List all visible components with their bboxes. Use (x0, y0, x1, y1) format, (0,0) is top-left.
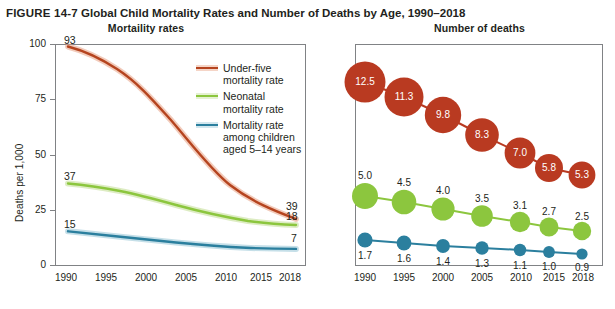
bubble-age-5-14-1990 (357, 232, 372, 247)
bubble-label-neonatal-2018: 2.5 (562, 211, 602, 222)
bubble-label-under-five-1990: 12.5 (345, 76, 385, 87)
bubble-label-age-5-14-2005: 1.3 (462, 258, 502, 269)
data-label-neonatal-end: 18 (286, 210, 298, 222)
bubble-label-under-five-1995: 11.3 (384, 91, 424, 102)
bubble-neonatal-2015 (540, 218, 559, 237)
figure-title: FIGURE 14-7 Global Child Mortality Rates… (6, 6, 465, 20)
bubble-neonatal-1995 (392, 190, 417, 215)
legend-label: Under-five mortality rate (223, 62, 284, 86)
line-swatch-icon (196, 90, 218, 102)
series-line-age-5-14 (68, 231, 296, 249)
legend-item-under-five-mortality-rate[interactable]: Under-five mortality rate (196, 62, 301, 86)
bubble-age-5-14-2018 (576, 248, 587, 259)
bubble-age-5-14-2000 (436, 239, 450, 253)
bubble-label-neonatal-2005: 3.5 (462, 193, 502, 204)
legend-item-mortality-rate-age-5-14[interactable]: Mortality rate among children aged 5–14 … (196, 119, 301, 156)
bubble-label-neonatal-1990: 5.0 (345, 170, 385, 181)
data-label-age-5-14-start: 15 (64, 218, 76, 230)
bubble-neonatal-2000 (431, 197, 454, 220)
legend-label: Neonatal mortality rate (223, 90, 284, 114)
figure-caption: Global Child Mortality Rates and Number … (81, 7, 465, 19)
bubble-label-neonatal-2000: 4.0 (423, 185, 463, 196)
bubble-label-age-5-14-2018: 0.9 (562, 262, 602, 273)
bubble-label-age-5-14-1995: 1.6 (384, 253, 424, 264)
bubble-label-under-five-2018: 5.3 (562, 169, 602, 180)
bubble-neonatal-2018 (573, 222, 591, 240)
panel-mortality-rates: Mortaility rates Deaths per 1,000 100 75… (0, 22, 320, 307)
bubble-label-under-five-2010: 7.0 (500, 147, 540, 158)
bubble-age-5-14-2010 (514, 244, 526, 256)
bubble-label-neonatal-1995: 4.5 (384, 177, 424, 188)
data-label-neonatal-start: 37 (64, 170, 76, 182)
line-swatch-icon (196, 62, 218, 74)
bubble-neonatal-2010 (510, 212, 530, 232)
bubble-age-5-14-2015 (543, 246, 555, 258)
legend-left: Under-five mortality rate Neonatal morta… (196, 62, 301, 159)
line-swatch-icon (196, 119, 218, 131)
bubble-label-age-5-14-1990: 1.7 (345, 250, 385, 261)
panel-number-of-deaths: Number of deaths Deaths (in millions) 19… (320, 22, 615, 307)
bubble-neonatal-1990 (352, 183, 378, 209)
bubble-label-under-five-2000: 9.8 (423, 109, 463, 120)
bubble-label-under-five-2005: 8.3 (462, 129, 502, 140)
bubble-neonatal-2005 (471, 205, 493, 227)
bubble-age-5-14-1995 (397, 236, 412, 251)
figure-number: FIGURE 14-7 (6, 7, 78, 19)
legend-item-neonatal-mortality-rate[interactable]: Neonatal mortality rate (196, 90, 301, 114)
data-label-age-5-14-end: 7 (291, 232, 297, 244)
bubble-label-age-5-14-2000: 1.4 (423, 256, 463, 267)
legend-label: Mortality rate among children aged 5–14 … (223, 119, 301, 156)
data-label-under-five-start: 93 (64, 34, 76, 46)
bubble-age-5-14-2005 (475, 241, 488, 254)
